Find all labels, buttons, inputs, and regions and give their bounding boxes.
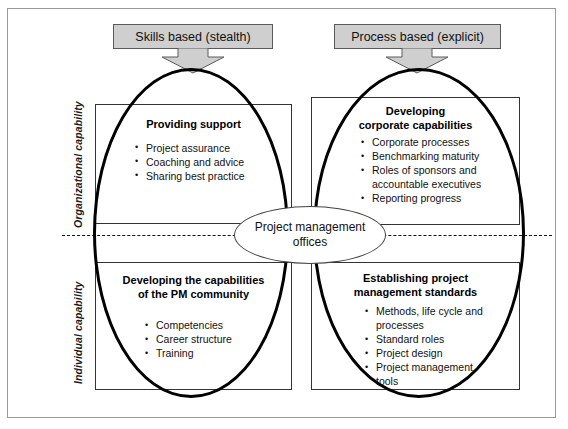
header-box-process-based: Process based (explicit) bbox=[334, 24, 501, 49]
diagram-canvas: Organizational capability Individual cap… bbox=[0, 0, 568, 429]
axis-label-organizational-capability: Organizational capability bbox=[72, 101, 84, 228]
center-line-1: Project management bbox=[255, 220, 366, 234]
center-line-2: offices bbox=[293, 235, 327, 249]
header-box-skills-based: Skills based (stealth) bbox=[113, 24, 273, 49]
axis-label-individual-capability: Individual capability bbox=[72, 282, 84, 384]
center-ellipse-project-management-offices: Project management offices bbox=[234, 206, 386, 264]
center-ellipse-label: Project management offices bbox=[255, 220, 366, 250]
